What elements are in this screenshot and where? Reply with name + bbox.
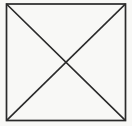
square-with-diagonals-figure bbox=[0, 0, 132, 126]
figure-canvas bbox=[0, 0, 132, 126]
